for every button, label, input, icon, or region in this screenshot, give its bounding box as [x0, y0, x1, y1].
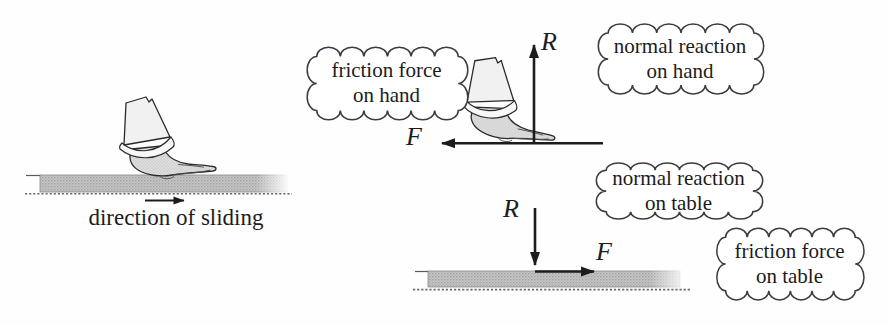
hand-illustration-top — [458, 54, 565, 148]
table-force-axes — [535, 208, 594, 272]
bubble-normal-hand-text: normal reaction on hand — [594, 34, 766, 84]
bubble-friction-hand-text: friction force on hand — [303, 58, 470, 108]
hand-illustration-left — [120, 97, 216, 179]
bubble-line: friction force — [713, 239, 866, 264]
bubble-friction-table-text: friction force on table — [713, 239, 866, 289]
bubble-normal-table-text: normal reaction on table — [592, 166, 765, 216]
friction-force-on-hand-label: F — [406, 124, 422, 150]
left-table-surface — [25, 174, 292, 194]
bubble-line: normal reaction — [592, 166, 765, 191]
normal-reaction-on-table-label: R — [503, 196, 519, 222]
bubble-line: friction force — [303, 58, 470, 83]
bubble-line: on table — [713, 264, 866, 289]
sliding-direction-caption: direction of sliding — [86, 205, 266, 231]
bubble-line: on table — [592, 191, 765, 216]
bubble-line: on hand — [594, 59, 766, 84]
bubble-line: on hand — [303, 83, 470, 108]
bottom-table-surface — [413, 270, 690, 290]
friction-force-on-table-label: F — [596, 239, 612, 265]
friction-forces-figure: direction of sliding R F R F friction fo… — [0, 0, 889, 324]
normal-reaction-on-hand-label: R — [541, 29, 557, 55]
bubble-line: normal reaction — [594, 34, 766, 59]
